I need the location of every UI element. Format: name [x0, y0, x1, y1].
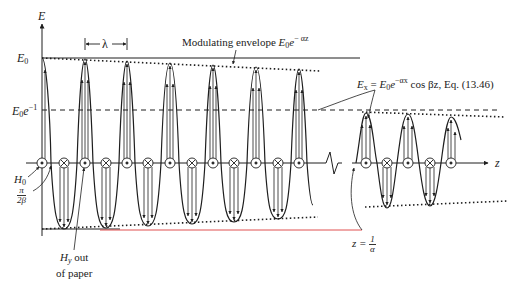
field-lhs: E [357, 78, 364, 90]
upper-envelope-left [42, 58, 320, 71]
h0-symbol: H [14, 173, 22, 185]
exp-sup: −1 [29, 103, 38, 112]
cross-marker [59, 158, 69, 168]
hy-line1: Hy out [56, 252, 92, 265]
hy-symbol: H [60, 251, 68, 263]
dot-marker [80, 158, 90, 168]
dot-marker [208, 158, 218, 168]
dot-marker [361, 158, 371, 168]
left-wave [42, 58, 313, 229]
dot-marker [294, 158, 304, 168]
dot-marker [251, 158, 261, 168]
left-field-lines [45, 62, 302, 227]
cross-marker [101, 158, 111, 168]
z-axis-label: z [495, 157, 500, 169]
hy-rest: out [72, 251, 89, 263]
envelope-text: Modulating envelope [182, 36, 279, 48]
z-alpha-lhs: z = [352, 237, 369, 249]
cross-marker [425, 158, 435, 168]
hy-label: Hy out of paper [56, 252, 92, 279]
cross-marker [229, 158, 239, 168]
lower-envelope-right [365, 201, 507, 207]
e0-level-label: E0 [17, 52, 28, 66]
upper-envelope-right [362, 112, 505, 117]
leader-lines [28, 50, 375, 250]
cross-marker [143, 158, 153, 168]
e-axis-label: E [38, 10, 45, 22]
one-over-alpha: 1α [369, 235, 376, 254]
envelope-sup: − αz [294, 34, 308, 43]
cross-marker [273, 158, 283, 168]
cross-marker [187, 158, 197, 168]
dot-marker [446, 158, 456, 168]
envelope-label: Modulating envelope E0e− αz [182, 35, 308, 50]
frac-den: 2β [17, 196, 26, 205]
pi-over-2beta: π2β [17, 186, 26, 205]
dot-marker [122, 158, 132, 168]
e0-inv-e-level-label: E0e−1 [12, 104, 37, 119]
e0-subscript: 0 [24, 57, 28, 66]
field-sup: −αx [395, 76, 408, 85]
wavelength-label: λ [102, 38, 108, 50]
hy-line2: of paper [56, 268, 92, 279]
field-rest: cos βz, Eq. (13.46) [408, 78, 494, 90]
frac-den: α [369, 245, 376, 254]
z-alpha-label: z = 1α [352, 235, 376, 254]
field-equation-label: Ex = E0e−αx cos βz, Eq. (13.46) [357, 77, 494, 92]
quarter-wave-label: π2β [17, 186, 26, 205]
axis-break [318, 152, 342, 174]
dot-marker [37, 158, 47, 168]
cross-marker [382, 158, 392, 168]
field-eq: = [368, 78, 380, 90]
dot-marker [165, 158, 175, 168]
dot-marker [403, 158, 413, 168]
